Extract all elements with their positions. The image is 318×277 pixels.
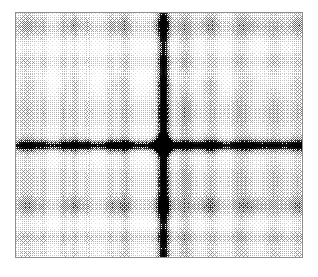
figure-root [0, 0, 318, 277]
spectrum-plot [15, 12, 303, 258]
fft-spectrum-heatmap [16, 13, 302, 257]
